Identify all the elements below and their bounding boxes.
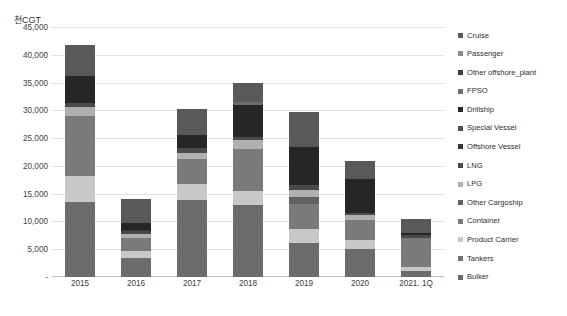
legend-item-label: Other Cargoship: [467, 199, 523, 207]
bar-segment[interactable]: [233, 140, 263, 149]
legend-item[interactable]: Product Carrier: [455, 231, 567, 250]
bar-segment[interactable]: [289, 190, 319, 197]
y-axis-tick-label: 10,000: [4, 217, 48, 226]
bar-segment[interactable]: [121, 261, 151, 277]
bar-segment[interactable]: [177, 159, 207, 184]
legend-item[interactable]: Container: [455, 212, 567, 231]
legend-swatch-icon: [458, 237, 463, 242]
y-axis-tick-label: 5,000: [4, 245, 48, 254]
x-axis-tick-labels: 2015201620172018201920202021. 1Q: [52, 279, 444, 299]
bar-segment[interactable]: [289, 243, 319, 277]
bar-segment[interactable]: [345, 161, 375, 179]
legend-swatch-icon: [458, 275, 463, 280]
x-axis-tick-label: 2017: [162, 279, 222, 288]
legend-swatch-icon: [458, 33, 463, 38]
bar-segment[interactable]: [177, 184, 207, 201]
legend-item[interactable]: Tankers: [455, 249, 567, 268]
bar-segment[interactable]: [233, 149, 263, 191]
legend-swatch-icon: [458, 51, 463, 56]
x-axis-tick-label: 2021. 1Q: [386, 279, 446, 288]
bar-segment[interactable]: [345, 220, 375, 239]
y-axis-tick-label: -: [4, 273, 48, 282]
bar-segment[interactable]: [65, 116, 95, 177]
bar-segment[interactable]: [345, 249, 375, 277]
legend-item-label: Tankers: [467, 255, 494, 263]
bar-segment[interactable]: [177, 135, 207, 147]
bar-segment[interactable]: [177, 109, 207, 135]
legend-swatch-icon: [458, 107, 463, 112]
legend-swatch-icon: [458, 126, 463, 131]
legend-item[interactable]: Drillship: [455, 100, 567, 119]
bar-segment[interactable]: [289, 197, 319, 204]
bar-segment[interactable]: [401, 238, 431, 267]
bar-segment[interactable]: [289, 229, 319, 242]
bar-segment[interactable]: [177, 200, 207, 277]
y-axis-tick-label: 35,000: [4, 78, 48, 87]
bar-segment[interactable]: [289, 204, 319, 230]
bar-column[interactable]: [177, 109, 207, 277]
bar-column[interactable]: [345, 161, 375, 277]
legend-item[interactable]: Other offshore_plant: [455, 63, 567, 82]
bar-segment[interactable]: [233, 83, 263, 102]
legend-item-label: Cruise: [467, 32, 489, 40]
bar-segment[interactable]: [121, 238, 151, 251]
bar-segment[interactable]: [65, 202, 95, 277]
legend-item[interactable]: LNG: [455, 156, 567, 175]
x-axis-tick-label: 2016: [106, 279, 166, 288]
y-axis-tick-label: 25,000: [4, 134, 48, 143]
bar-segment[interactable]: [65, 176, 95, 202]
bar-segment[interactable]: [345, 179, 375, 213]
bar-segment[interactable]: [345, 240, 375, 249]
legend-item[interactable]: Offshore Vessel: [455, 138, 567, 157]
legend-item-label: Product Carrier: [467, 236, 518, 244]
bar-segment[interactable]: [289, 112, 319, 147]
legend-swatch-icon: [458, 219, 463, 224]
bar-segment[interactable]: [121, 199, 151, 222]
bar-segment[interactable]: [65, 45, 95, 76]
bar-segment[interactable]: [289, 147, 319, 185]
legend-item[interactable]: FPSO: [455, 82, 567, 101]
y-axis-tick-label: 40,000: [4, 50, 48, 59]
legend-swatch-icon: [458, 200, 463, 205]
x-axis-tick-label: 2019: [274, 279, 334, 288]
bar-column[interactable]: [233, 83, 263, 277]
legend-item[interactable]: Special Vessel: [455, 119, 567, 138]
bar-column[interactable]: [65, 45, 95, 277]
legend-item-label: LPG: [467, 180, 482, 188]
bar-segment[interactable]: [65, 76, 95, 103]
legend-swatch-icon: [458, 70, 463, 75]
bar-segment[interactable]: [401, 271, 431, 277]
x-axis-tick-label: 2015: [50, 279, 110, 288]
y-axis-tick-label: 45,000: [4, 23, 48, 32]
legend-item-label: LNG: [467, 162, 483, 170]
chart-legend: CruisePassengerOther offshore_plantFPSOD…: [455, 26, 567, 286]
legend-item[interactable]: Bulker: [455, 268, 567, 287]
y-axis-tick-label: 20,000: [4, 161, 48, 170]
legend-item-label: Drillship: [467, 106, 494, 114]
legend-swatch-icon: [458, 144, 463, 149]
bar-column[interactable]: [401, 219, 431, 277]
legend-item[interactable]: LPG: [455, 175, 567, 194]
plot-area: [52, 27, 444, 277]
bar-segment[interactable]: [233, 205, 263, 277]
x-axis-tick-label: 2020: [330, 279, 390, 288]
legend-item-label: FPSO: [467, 87, 488, 95]
legend-swatch-icon: [458, 182, 463, 187]
y-axis-tick-label: 15,000: [4, 189, 48, 198]
bar-segment[interactable]: [233, 191, 263, 205]
legend-swatch-icon: [458, 163, 463, 168]
bar-segment[interactable]: [65, 107, 95, 116]
bar-segment[interactable]: [121, 223, 151, 230]
bar-column[interactable]: [289, 112, 319, 277]
bar-column[interactable]: [121, 199, 151, 277]
y-axis-tick-label: 30,000: [4, 106, 48, 115]
legend-item[interactable]: Passenger: [455, 45, 567, 64]
legend-item-label: Container: [467, 217, 500, 225]
bar-segment[interactable]: [401, 219, 431, 233]
legend-item-label: Bulker: [467, 273, 489, 281]
legend-item[interactable]: Other Cargoship: [455, 193, 567, 212]
stacked-bar-chart: 천CGT 45,00040,00035,00030,00025,00020,00…: [0, 0, 567, 316]
legend-item-label: Special Vessel: [467, 124, 516, 132]
bar-segment[interactable]: [233, 105, 263, 137]
legend-item[interactable]: Cruise: [455, 26, 567, 45]
